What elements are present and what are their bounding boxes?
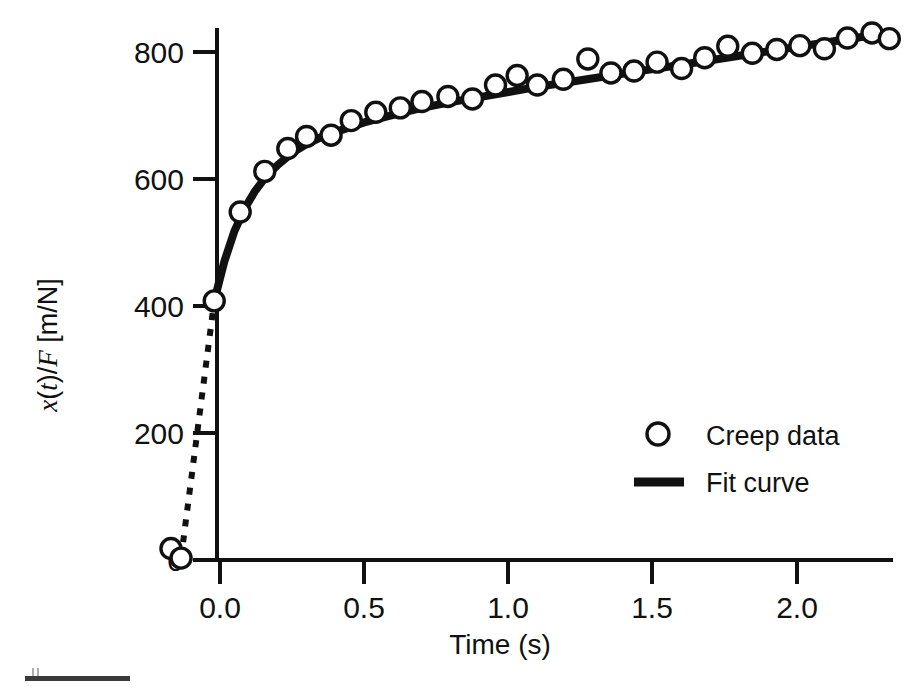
y-axis-title-paren-open: (: [33, 391, 63, 400]
x-tick-label-1-0: 1.0: [487, 591, 529, 624]
x-tick-label-0-5: 0.5: [343, 591, 385, 624]
data-point: [321, 125, 341, 145]
data-point: [647, 52, 667, 72]
data-point: [718, 36, 738, 56]
y-axis-title-paren-close: ): [33, 374, 63, 383]
fit-curve-line: [214, 33, 889, 301]
data-point: [790, 36, 810, 56]
y-tick-label-600: 600: [134, 163, 184, 196]
legend-marker-creep-data: [647, 423, 669, 445]
data-point: [278, 139, 298, 159]
data-point: [230, 202, 250, 222]
data-point: [553, 69, 573, 89]
data-point: [527, 75, 547, 95]
data-point: [462, 89, 482, 109]
y-tick-label-800: 800: [134, 36, 184, 69]
x-tick-label-0-0: 0.0: [199, 591, 241, 624]
y-axis-title-x: x: [33, 400, 63, 413]
y-tick-label-200: 200: [134, 417, 184, 450]
y-axis-tick-labels: 800 600 400 200 0: [134, 36, 184, 577]
y-axis-title: x(t)/F [m/N]: [33, 278, 63, 413]
data-point: [255, 161, 275, 181]
loading-jump-dashed-line: [181, 301, 214, 558]
x-tick-label-2-0: 2.0: [776, 591, 818, 624]
data-point: [171, 548, 191, 568]
chart-legend: Creep data Fit curve: [634, 421, 841, 498]
x-tick-label-1-5: 1.5: [631, 591, 673, 624]
data-point: [624, 61, 644, 81]
y-axis-title-unit: [m/N]: [33, 278, 63, 350]
data-point: [879, 29, 899, 49]
data-point: [412, 92, 432, 112]
scale-bar-artifact: [25, 668, 130, 681]
x-axis-tick-labels: 0.0 0.5 1.0 1.5 2.0: [199, 591, 818, 624]
data-point: [695, 48, 715, 68]
data-point: [601, 63, 621, 83]
data-point: [814, 39, 834, 59]
data-point: [767, 39, 787, 59]
legend-label-fit-curve: Fit curve: [706, 468, 810, 498]
x-axis-ticks: [220, 560, 797, 584]
data-point: [438, 86, 458, 106]
data-point: [486, 75, 506, 95]
creep-compliance-plot: 800 600 400 200 0 0.0 0.5 1.0 1.5 2.0 Ti…: [0, 0, 919, 690]
svg-text:x(t)/F [m/N]: x(t)/F [m/N]: [33, 278, 63, 413]
data-point: [507, 66, 527, 86]
data-point: [578, 49, 598, 69]
data-point: [742, 43, 762, 63]
data-point: [297, 126, 317, 146]
y-tick-label-400: 400: [134, 290, 184, 323]
data-point: [390, 98, 410, 118]
x-axis-title: Time (s): [449, 629, 551, 660]
data-point: [837, 28, 857, 48]
data-point: [366, 102, 386, 122]
data-point: [204, 291, 224, 311]
legend-label-creep-data: Creep data: [706, 421, 841, 451]
chart-figure: 800 600 400 200 0 0.0 0.5 1.0 1.5 2.0 Ti…: [0, 0, 919, 690]
data-point: [672, 59, 692, 79]
data-point: [341, 111, 361, 131]
y-axis-title-F: F: [33, 350, 63, 368]
